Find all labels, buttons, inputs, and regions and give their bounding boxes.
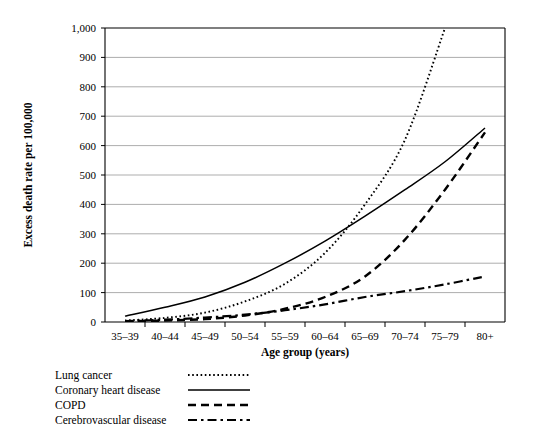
y-axis-ticks: 01002003004005006007008009001,000	[71, 22, 105, 328]
excess-death-rate-line-chart: 01002003004005006007008009001,000 35–394…	[0, 0, 558, 437]
y-tick-label: 600	[80, 140, 97, 152]
chart-figure: 01002003004005006007008009001,000 35–394…	[0, 0, 558, 437]
x-tick-label: 70–74	[391, 330, 419, 342]
x-axis-ticks: 35–3940–4445–4950–5455–5960–6465–6970–74…	[111, 322, 493, 342]
y-tick-label: 300	[80, 228, 97, 240]
y-tick-label: 0	[91, 316, 97, 328]
y-tick-label: 500	[80, 169, 97, 181]
x-tick-label: 65–69	[351, 330, 379, 342]
legend-label-cerebrovascular-disease: Cerebrovascular disease	[55, 414, 166, 426]
legend-label-coronary-heart-disease: Coronary heart disease	[55, 384, 160, 397]
y-tick-label: 200	[80, 257, 97, 269]
x-tick-label: 55–59	[271, 330, 299, 342]
x-tick-label: 60–64	[311, 330, 339, 342]
y-tick-label: 100	[80, 287, 97, 299]
x-tick-label: 35–39	[111, 330, 139, 342]
y-tick-label: 700	[80, 110, 97, 122]
y-tick-label: 400	[80, 198, 97, 210]
x-axis-title: Age group (years)	[261, 346, 349, 359]
x-tick-label: 45–49	[191, 330, 219, 342]
legend-label-lung-cancer: Lung cancer	[55, 369, 112, 382]
y-tick-label: 800	[80, 81, 97, 93]
x-tick-label: 50–54	[231, 330, 259, 342]
x-tick-label: 80+	[476, 330, 493, 342]
x-tick-label: 75–79	[431, 330, 459, 342]
chart-legend: Lung cancerCoronary heart diseaseCOPDCer…	[55, 369, 250, 426]
legend-label-copd: COPD	[55, 399, 86, 411]
y-tick-label: 900	[80, 51, 97, 63]
y-tick-label: 1,000	[71, 22, 96, 34]
y-axis-title: Excess death rate per 100,000	[22, 102, 35, 247]
x-tick-label: 40–44	[151, 330, 179, 342]
